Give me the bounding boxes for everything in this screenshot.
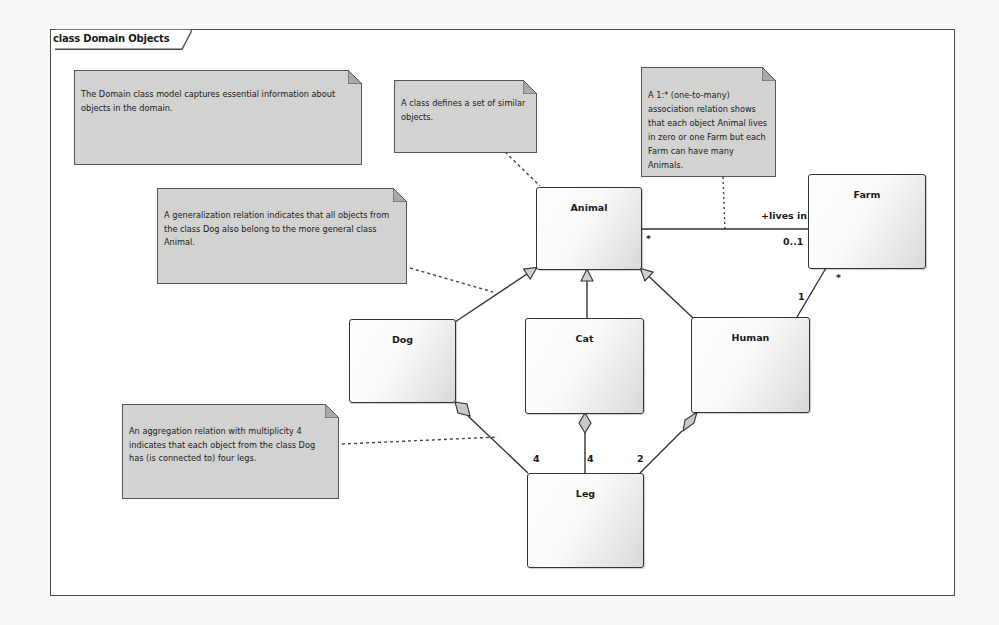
class-name: Farm bbox=[809, 189, 925, 200]
class-name: Human bbox=[692, 332, 809, 343]
note-domain-model: The Domain class model captures essentia… bbox=[74, 70, 362, 165]
class-farm[interactable]: Farm bbox=[808, 174, 926, 269]
multiplicity-human-farm-farm-end: * bbox=[836, 272, 841, 283]
note-generalization: A generalization relation indicates that… bbox=[157, 188, 407, 284]
note-text: A class defines a set of similar objects… bbox=[401, 98, 525, 122]
multiplicity-farm-end: 0..1 bbox=[783, 236, 803, 247]
note-text: A 1:* (one-to-many) association relation… bbox=[648, 90, 767, 170]
multiplicity-animal-end: * bbox=[646, 233, 651, 244]
note-class-definition: A class defines a set of similar objects… bbox=[394, 80, 537, 153]
class-cat[interactable]: Cat bbox=[525, 318, 644, 414]
multiplicity-dog-leg: 4 bbox=[533, 453, 540, 464]
note-fold-icon bbox=[393, 188, 407, 202]
class-name: Leg bbox=[528, 488, 643, 499]
note-text: A generalization relation indicates that… bbox=[164, 210, 389, 247]
note-association: A 1:* (one-to-many) association relation… bbox=[641, 67, 776, 177]
note-text: An aggregation relation with multiplicit… bbox=[129, 426, 315, 463]
note-fold-icon bbox=[523, 80, 537, 94]
association-role-label: +lives in bbox=[761, 210, 807, 221]
multiplicity-human-farm-human-end: 1 bbox=[798, 291, 805, 302]
note-fold-icon bbox=[762, 67, 776, 81]
class-human[interactable]: Human bbox=[691, 317, 810, 413]
multiplicity-human-leg: 2 bbox=[637, 453, 644, 464]
class-animal[interactable]: Animal bbox=[536, 187, 642, 270]
class-name: Animal bbox=[537, 202, 641, 213]
class-dog[interactable]: Dog bbox=[349, 319, 456, 403]
note-fold-icon bbox=[348, 70, 362, 84]
class-name: Cat bbox=[526, 333, 643, 344]
class-leg[interactable]: Leg bbox=[527, 473, 644, 568]
class-name: Dog bbox=[350, 334, 455, 345]
note-text: The Domain class model captures essentia… bbox=[81, 89, 335, 113]
note-aggregation: An aggregation relation with multiplicit… bbox=[122, 404, 339, 499]
multiplicity-cat-leg: 4 bbox=[587, 453, 594, 464]
note-fold-icon bbox=[325, 404, 339, 418]
